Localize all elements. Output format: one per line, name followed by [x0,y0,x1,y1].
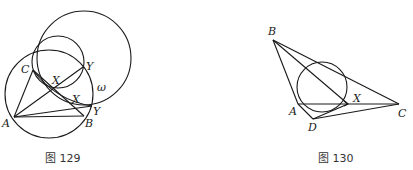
geometry-figures: A B C X Y X Y ω 图 129 B A C D X 图 130 [0,0,413,170]
segment-ab [14,116,84,117]
segment-ba [273,40,298,104]
label-b: B [84,117,93,130]
label-b: B [267,25,276,38]
figure-130: B A C D X 图 130 [267,25,407,165]
figure-129: A B C X Y X Y ω 图 129 [1,11,131,165]
label-d: D [307,121,317,134]
caption-figure-130: 图 130 [318,152,354,165]
label-y-lower: Y [93,105,102,118]
segment-ay-lower [14,106,92,117]
label-omega: ω [97,81,106,94]
label-y-upper: Y [86,60,95,73]
label-x-upper: X [51,74,61,87]
label-c: C [398,107,407,120]
label-c: C [21,63,30,76]
label-x: X [352,92,362,105]
label-x-lower: X [71,93,81,106]
label-a: A [1,117,10,130]
label-a: A [288,105,297,118]
caption-figure-129: 图 129 [45,152,81,165]
